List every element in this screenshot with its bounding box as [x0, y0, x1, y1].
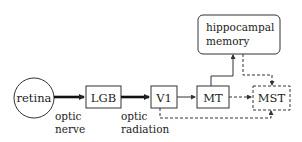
node-lgb: LGB [86, 86, 121, 108]
hippocampal-label-line1: hippocampal [206, 21, 275, 33]
optic-radiation-label-line1: optic [121, 110, 148, 122]
edge-hippocampal-mst [243, 54, 272, 85]
lgb-label: LGB [91, 91, 116, 105]
mst-label: MST [258, 91, 286, 105]
hippocampal-label-line2: memory [206, 35, 249, 47]
node-hippocampal-memory: hippocampal memory [198, 15, 280, 54]
v1-label: V1 [155, 91, 172, 105]
retina-label: retina [17, 91, 52, 105]
edge-mt-hippocampal [211, 55, 233, 86]
node-v1: V1 [151, 86, 177, 108]
node-retina: retina [14, 78, 54, 118]
optic-nerve-label-line2: nerve [55, 123, 85, 135]
mt-label: MT [203, 91, 223, 105]
node-mt: MT [197, 86, 229, 108]
node-mst: MST [253, 86, 290, 110]
optic-nerve-label-line1: optic [55, 110, 82, 122]
optic-radiation-label-line2: radiation [121, 123, 170, 135]
visual-pathway-diagram: retina optic nerve LGB optic radiation V… [0, 0, 302, 142]
